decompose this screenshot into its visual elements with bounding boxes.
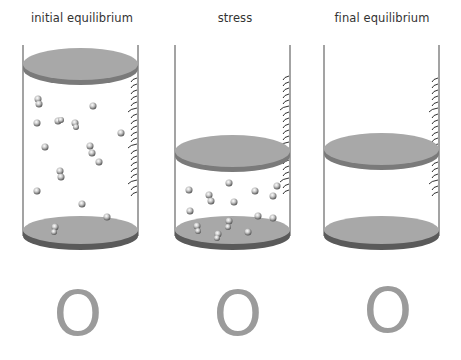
cylinder-stress <box>175 45 290 250</box>
graduation-ticks <box>429 78 438 196</box>
piston-disc <box>175 135 290 172</box>
cylinders-diagram <box>0 0 461 280</box>
symbol-stress: O <box>208 283 268 345</box>
graduation-ticks <box>280 76 289 194</box>
gas-molecules <box>34 96 125 236</box>
piston-disc <box>23 48 138 85</box>
cylinder-initial <box>23 45 138 250</box>
cylinder-final <box>324 45 439 250</box>
base-disc <box>324 216 439 250</box>
base-disc <box>23 216 138 250</box>
symbol-final: O <box>358 280 418 342</box>
symbol-initial: O <box>48 283 108 345</box>
graduation-ticks <box>128 78 137 196</box>
piston-disc <box>324 133 439 170</box>
